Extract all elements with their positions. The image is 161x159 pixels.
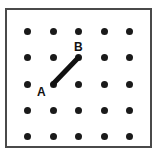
point-label-b: B [74, 41, 83, 53]
segment-a-to-b [53, 58, 78, 84]
dot-grid-figure: A B [0, 0, 161, 159]
segment-layer [0, 0, 161, 159]
point-label-a: A [37, 86, 46, 98]
